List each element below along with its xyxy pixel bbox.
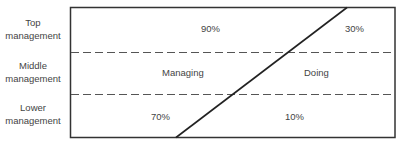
level-label-top: Top management [0,16,66,42]
level-top-line1: Top [0,16,66,29]
level-label-middle: Middle management [0,59,66,85]
level-middle-line2: management [0,72,66,85]
level-lower-line1: Lower [0,101,66,114]
pct-lower-managing: 70% [151,111,170,122]
level-lower-line2: management [0,114,66,127]
region-managing-label: Managing [162,67,204,78]
region-doing-label: Doing [304,67,329,78]
pct-top-managing: 90% [201,23,220,34]
pct-top-doing: 30% [345,23,364,34]
level-label-lower: Lower management [0,101,66,127]
pct-lower-doing: 10% [285,111,304,122]
level-top-line2: management [0,29,66,42]
level-middle-line1: Middle [0,59,66,72]
